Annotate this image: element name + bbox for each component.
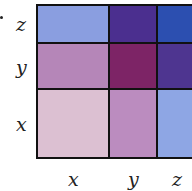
cell-y-z bbox=[158, 44, 192, 88]
cell-y-y bbox=[110, 44, 156, 88]
y-label-z: z bbox=[16, 15, 26, 34]
bullet-dot bbox=[0, 16, 3, 19]
cell-y-x bbox=[38, 44, 108, 88]
heatmap-grid bbox=[36, 4, 192, 159]
y-label-y: y bbox=[16, 58, 27, 77]
cell-x-y bbox=[110, 90, 156, 157]
cell-z-y bbox=[110, 6, 156, 42]
y-label-x: x bbox=[16, 115, 27, 134]
x-label-x: x bbox=[68, 170, 79, 189]
cell-x-x bbox=[38, 90, 108, 157]
cell-z-z bbox=[158, 6, 192, 42]
cell-z-x bbox=[38, 6, 108, 42]
cell-x-z bbox=[158, 90, 192, 157]
x-label-z: z bbox=[172, 170, 182, 189]
x-label-y: y bbox=[128, 170, 139, 189]
